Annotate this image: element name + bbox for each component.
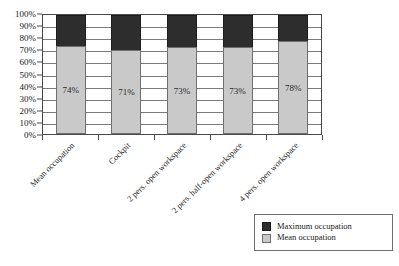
- bar-data-label: 73%: [224, 86, 252, 95]
- y-axis-tick-label: 40%: [20, 82, 37, 91]
- bar-segment-mean-occupation: 73%: [167, 47, 197, 134]
- stacked-bar[interactable]: 78%: [278, 15, 308, 134]
- bar-segment-maximum-occupation: [56, 15, 86, 46]
- stacked-bar[interactable]: 73%: [167, 15, 197, 134]
- y-axis-tick-label: 70%: [20, 46, 37, 55]
- legend-swatch-maximum-occupation: [262, 222, 271, 231]
- bar-slot: 78%: [265, 15, 321, 134]
- x-axis-tick-mark: [210, 135, 211, 140]
- legend-label-mean-occupation: Mean occupation: [277, 233, 336, 242]
- stacked-bar[interactable]: 74%: [56, 15, 86, 134]
- stacked-bar[interactable]: 73%: [223, 15, 253, 134]
- x-axis-category-label: 4 pers. open workspace: [238, 141, 300, 203]
- legend-item: Mean occupation: [262, 233, 386, 242]
- bar-segment-maximum-occupation: [223, 15, 253, 47]
- bar-segment-maximum-occupation: [167, 15, 197, 47]
- bar-slot: 73%: [154, 15, 210, 134]
- bar-data-label: 73%: [168, 86, 196, 95]
- occupation-stacked-bar-chart: 0%10%20%30%40%50%60%70%80%90%100% 74%71%…: [0, 0, 399, 266]
- bar-segment-mean-occupation: 71%: [111, 50, 141, 135]
- y-axis-tick-label: 30%: [20, 94, 37, 103]
- bars-layer: 74%71%73%73%78%: [43, 15, 321, 134]
- bar-slot: 73%: [210, 15, 266, 134]
- y-axis-tick-label: 100%: [15, 10, 36, 19]
- legend-label-maximum-occupation: Maximum occupation: [277, 222, 352, 231]
- x-axis-tick-mark: [322, 135, 323, 140]
- x-axis-tick-mark: [154, 135, 155, 140]
- bar-slot: 71%: [99, 15, 155, 134]
- bar-segment-maximum-occupation: [278, 15, 308, 41]
- legend-item: Maximum occupation: [262, 222, 386, 231]
- bar-segment-mean-occupation: 73%: [223, 47, 253, 134]
- y-axis-tick-label: 10%: [20, 118, 37, 127]
- y-axis-tick-label: 90%: [20, 22, 37, 31]
- bar-data-label: 78%: [279, 83, 307, 92]
- stacked-bar[interactable]: 71%: [111, 15, 141, 134]
- y-axis-tick-label: 50%: [20, 70, 37, 79]
- bar-segment-maximum-occupation: [111, 15, 141, 50]
- x-axis-category-label: 2 pers. open workspace: [126, 141, 188, 203]
- bar-segment-mean-occupation: 74%: [56, 46, 86, 134]
- y-axis: 0%10%20%30%40%50%60%70%80%90%100%: [0, 14, 42, 135]
- x-axis-tick-mark: [42, 135, 43, 140]
- plot-area: 74%71%73%73%78%: [42, 14, 322, 135]
- y-axis-tick-label: 60%: [20, 58, 37, 67]
- bar-data-label: 74%: [57, 85, 85, 94]
- bar-segment-mean-occupation: 78%: [278, 41, 308, 134]
- y-axis-tick-label: 0%: [24, 131, 36, 140]
- x-axis-category-label: Mean occupation: [28, 141, 76, 189]
- x-axis-tick-mark: [266, 135, 267, 140]
- y-axis-tick-label: 20%: [20, 106, 37, 115]
- chart-legend: Maximum occupation Mean occupation: [254, 214, 393, 251]
- bar-data-label: 71%: [112, 87, 140, 96]
- x-axis-category-label: Cockpit: [107, 141, 132, 166]
- bar-slot: 74%: [43, 15, 99, 134]
- y-axis-tick-label: 80%: [20, 34, 37, 43]
- x-axis-tick-mark: [98, 135, 99, 140]
- legend-swatch-mean-occupation: [262, 234, 271, 243]
